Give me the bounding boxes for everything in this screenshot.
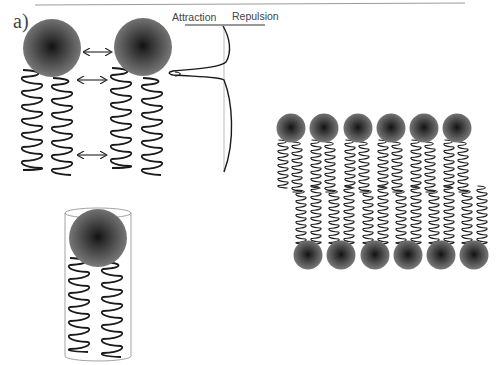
lateral-pressure-profile xyxy=(169,25,265,172)
hydrocarbon-tail xyxy=(311,186,321,244)
hydrocarbon-tail xyxy=(378,186,388,244)
cylinder-bottom xyxy=(65,356,131,361)
lipid-head xyxy=(427,241,456,270)
hydrocarbon-tail xyxy=(102,262,122,357)
hydrocarbon-tail xyxy=(278,140,288,188)
diagram-canvas xyxy=(0,0,500,365)
hydrocarbon-tail xyxy=(345,140,355,188)
hydrocarbon-tail xyxy=(458,142,468,192)
hydrocarbon-tail xyxy=(142,78,162,175)
lipid-head xyxy=(344,114,373,143)
hydrocarbon-tail xyxy=(462,190,472,244)
hydrocarbon-tail xyxy=(52,78,72,175)
lipid-pair-tails xyxy=(22,68,180,175)
hydrocarbon-tail xyxy=(329,190,339,244)
lipid-head xyxy=(310,114,339,143)
hydrocarbon-tail xyxy=(296,190,306,244)
lipid-bilayer xyxy=(277,114,489,270)
attraction-label: Attraction xyxy=(172,11,216,23)
lipid-head-left xyxy=(23,19,81,77)
hydrocarbon-tail xyxy=(396,190,406,244)
hydrocarbon-tail xyxy=(344,186,354,244)
profile-curve xyxy=(169,26,231,172)
hydrocarbon-tail xyxy=(392,142,402,192)
repulsion-label: Repulsion xyxy=(232,10,279,22)
hydrocarbon-tail xyxy=(444,186,454,244)
lipid-head xyxy=(294,241,323,270)
hydrocarbon-tail xyxy=(359,142,369,192)
lipid-head xyxy=(277,114,306,143)
hydrocarbon-tail xyxy=(444,140,454,188)
cylinder-lipid-head xyxy=(69,209,127,267)
hydrocarbon-tail xyxy=(378,140,388,188)
hydrocarbon-tail xyxy=(411,186,421,244)
lipid-head xyxy=(361,241,390,270)
hydrocarbon-tail xyxy=(425,142,435,192)
top-rule xyxy=(35,3,465,5)
hydrocarbon-tail xyxy=(311,140,321,188)
hydrocarbon-tail xyxy=(429,190,439,244)
hydrocarbon-tail xyxy=(22,70,42,170)
lipid-head xyxy=(327,241,356,270)
panel-label: a) xyxy=(13,10,29,33)
lipid-head-right xyxy=(114,18,172,76)
lipid-head xyxy=(443,114,472,143)
hydrocarbon-tail xyxy=(477,186,487,244)
lipid-head xyxy=(394,241,423,270)
hydrocarbon-tail xyxy=(69,258,89,352)
hydrocarbon-tail xyxy=(363,190,373,244)
hydrocarbon-tail xyxy=(111,68,131,168)
cylinder-shaped-lipid xyxy=(65,208,131,361)
lipid-head xyxy=(460,241,489,270)
hydrocarbon-tail xyxy=(411,140,421,188)
hydrocarbon-tail xyxy=(292,142,302,192)
lipid-head xyxy=(377,114,406,143)
lipid-interaction-diagram: a) Attraction Repulsion xyxy=(0,0,500,365)
lipid-head xyxy=(410,114,439,143)
hydrocarbon-tail xyxy=(325,142,335,192)
cylinder-lipid-tails xyxy=(69,258,122,357)
